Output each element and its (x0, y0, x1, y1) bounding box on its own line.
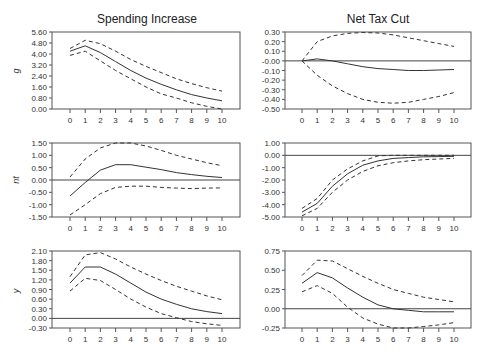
x-tick-label: 6 (159, 335, 164, 344)
x-tick-label: 3 (345, 335, 350, 344)
x-tick-label: 1 (83, 116, 88, 125)
x-tick-label: 9 (205, 224, 210, 233)
x-tick-label: 6 (159, 224, 164, 233)
x-tick-label: 6 (391, 116, 396, 125)
confidence-band-line (302, 33, 454, 61)
x-tick-label: 9 (205, 116, 210, 125)
y-tick-label: -0.30 (262, 86, 281, 95)
y-tick-label: 1.60 (31, 83, 47, 92)
y-tick-label: 0.00 (264, 151, 280, 160)
y-tick-label: 5.60 (31, 28, 47, 37)
plot-frame (285, 251, 471, 328)
x-tick-label: 4 (129, 224, 134, 233)
chart-panel-5: -0.250.000.250.500.75012345678910 (262, 247, 471, 344)
x-tick-label: 6 (159, 116, 164, 125)
x-tick-label: 0 (68, 335, 73, 344)
y-tick-label: -0.50 (262, 105, 281, 114)
confidence-band-line (70, 51, 222, 109)
x-tick-label: 5 (144, 224, 149, 233)
y-tick-label: 0.00 (264, 305, 280, 314)
x-tick-label: 4 (129, 335, 134, 344)
x-tick-label: 4 (129, 116, 134, 125)
x-tick-label: 7 (406, 116, 411, 125)
x-tick-label: 8 (421, 224, 426, 233)
x-tick-label: 1 (83, 335, 88, 344)
response-line (70, 46, 222, 101)
x-tick-label: 7 (406, 224, 411, 233)
y-tick-label: -1.00 (29, 201, 48, 210)
confidence-band-line (70, 186, 222, 215)
y-tick-label: -0.30 (29, 324, 48, 333)
y-tick-label: -2.00 (262, 176, 281, 185)
y-tick-label: 0.00 (31, 105, 47, 114)
x-tick-label: 10 (450, 335, 459, 344)
y-tick-label: 0.30 (264, 28, 280, 37)
x-tick-label: 8 (189, 224, 194, 233)
chart-panel-0: 0.000.801.602.403.204.004.805.6001234567… (31, 28, 240, 125)
x-tick-label: 7 (406, 335, 411, 344)
confidence-band-line (70, 143, 222, 177)
x-tick-label: 5 (376, 335, 381, 344)
impulse-response-grid: 0.000.801.602.403.204.004.805.6001234567… (0, 0, 490, 359)
x-tick-label: 5 (376, 224, 381, 233)
x-tick-label: 9 (437, 116, 442, 125)
x-tick-label: 7 (174, 335, 179, 344)
chart-panel-3: -5.00-4.00-3.00-2.00-1.000.001.000123456… (262, 139, 471, 233)
y-tick-label: -4.00 (262, 201, 281, 210)
x-tick-label: 9 (205, 335, 210, 344)
x-tick-label: 0 (68, 224, 73, 233)
y-tick-label: 0.90 (31, 286, 47, 295)
y-tick-label: -0.40 (262, 95, 281, 104)
x-tick-label: 10 (218, 335, 227, 344)
x-tick-label: 4 (361, 224, 366, 233)
y-tick-label: 1.80 (31, 257, 47, 266)
confidence-band-line (302, 158, 454, 215)
y-tick-label: -0.20 (262, 76, 281, 85)
x-tick-label: 10 (450, 116, 459, 125)
x-tick-label: 2 (330, 224, 335, 233)
x-tick-label: 8 (189, 116, 194, 125)
confidence-band-line (70, 253, 222, 300)
x-tick-label: 8 (421, 335, 426, 344)
x-tick-label: 9 (437, 224, 442, 233)
x-tick-label: 5 (376, 116, 381, 125)
y-tick-label: -0.00 (262, 57, 281, 66)
y-tick-label: 3.20 (31, 61, 47, 70)
y-tick-label: -1.00 (262, 164, 281, 173)
y-tick-label: 0.60 (31, 295, 47, 304)
y-tick-label: 2.40 (31, 72, 47, 81)
x-tick-label: 1 (315, 224, 320, 233)
x-tick-label: 5 (144, 116, 149, 125)
x-tick-label: 1 (315, 335, 320, 344)
y-tick-label: -0.10 (262, 67, 281, 76)
x-tick-label: 0 (300, 224, 305, 233)
y-tick-label: 0.20 (264, 38, 280, 47)
chart-panel-4: -0.300.000.300.600.901.201.501.802.10012… (29, 247, 240, 344)
x-tick-label: 5 (144, 335, 149, 344)
y-tick-label: 1.00 (264, 139, 280, 148)
y-tick-label: 1.50 (31, 139, 47, 148)
x-tick-label: 3 (345, 116, 350, 125)
x-tick-label: 4 (361, 116, 366, 125)
y-tick-label: 4.00 (31, 50, 47, 59)
y-tick-label: 4.80 (31, 39, 47, 48)
y-tick-label: 0.50 (31, 164, 47, 173)
y-tick-label: -0.50 (29, 188, 48, 197)
y-tick-label: 0.00 (31, 314, 47, 323)
x-tick-label: 6 (391, 224, 396, 233)
y-tick-label: 2.10 (31, 247, 47, 256)
x-tick-label: 2 (98, 224, 103, 233)
x-tick-label: 2 (98, 335, 103, 344)
confidence-band-line (302, 61, 454, 103)
y-tick-label: 0.50 (264, 266, 280, 275)
response-line (302, 273, 454, 312)
x-tick-label: 8 (421, 116, 426, 125)
x-tick-label: 3 (113, 335, 118, 344)
x-tick-label: 2 (98, 116, 103, 125)
confidence-band-line (70, 40, 222, 91)
y-tick-label: -5.00 (262, 213, 281, 222)
chart-panel-1: -0.50-0.40-0.30-0.20-0.10-0.000.100.200.… (262, 28, 471, 125)
y-tick-label: -0.25 (262, 324, 281, 333)
y-tick-label: 1.50 (31, 266, 47, 275)
x-tick-label: 8 (189, 335, 194, 344)
